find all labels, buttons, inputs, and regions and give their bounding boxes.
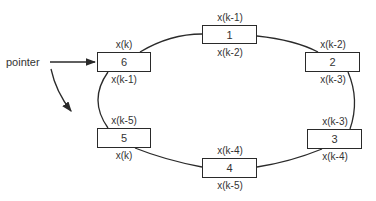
node-3-top-label: x(k-3) bbox=[322, 116, 348, 128]
node-id: 3 bbox=[331, 133, 337, 145]
node-1-top-label: x(k-1) bbox=[217, 12, 243, 24]
buffer-node-2: 2 bbox=[305, 52, 360, 72]
node-6-top-label: x(k) bbox=[116, 39, 133, 51]
buffer-node-4: 4 bbox=[202, 158, 257, 178]
ring-connections bbox=[0, 0, 376, 201]
node-id: 5 bbox=[121, 132, 127, 144]
node-3-bottom-label: x(k-4) bbox=[322, 151, 348, 163]
node-6-bottom-label: x(k-1) bbox=[111, 74, 137, 86]
buffer-node-3: 3 bbox=[307, 129, 362, 149]
node-id: 1 bbox=[226, 29, 232, 41]
node-id: 6 bbox=[121, 56, 127, 68]
node-4-bottom-label: x(k-5) bbox=[217, 180, 243, 192]
buffer-node-6: 6 bbox=[97, 52, 151, 72]
node-5-top-label: x(k-5) bbox=[111, 115, 137, 127]
node-id: 4 bbox=[226, 162, 232, 174]
pointer-label: pointer bbox=[6, 56, 40, 68]
node-5-bottom-label: x(k) bbox=[116, 150, 133, 162]
buffer-node-1: 1 bbox=[202, 25, 257, 44]
node-id: 2 bbox=[329, 56, 335, 68]
node-2-bottom-label: x(k-3) bbox=[320, 74, 346, 86]
node-1-bottom-label: x(k-2) bbox=[217, 47, 243, 59]
rotation-arrow bbox=[51, 69, 71, 111]
node-4-top-label: x(k-4) bbox=[217, 145, 243, 157]
node-2-top-label: x(k-2) bbox=[320, 39, 346, 51]
buffer-node-5: 5 bbox=[97, 128, 151, 148]
